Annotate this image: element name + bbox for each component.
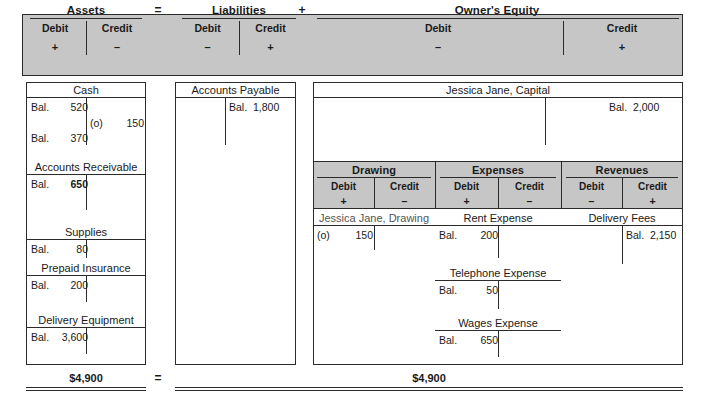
telephone-expense-stem: [498, 281, 499, 309]
delivery-fees-credit: Bal.2,150: [626, 229, 676, 242]
assets-total-double-rule: [26, 387, 146, 391]
accounts-receivable-debit: Bal.650: [31, 178, 88, 191]
liabilities-title-rule: [182, 18, 296, 19]
telephone-expense-debit: Bal.50: [439, 284, 498, 297]
account-name-prepaid-insurance: Prepaid Insurance: [26, 261, 146, 275]
owners-equity-title-rule: [317, 18, 679, 19]
account-name-accounts-receivable: Accounts Receivable: [26, 160, 146, 174]
rent-expense-stem: [498, 226, 499, 258]
cash-debit-1: Bal.520: [31, 101, 88, 114]
drawing-credit-label: Credit: [374, 180, 435, 193]
account-name-wages-expense: Wages Expense: [435, 316, 561, 330]
drawing-debit-sign: +: [313, 195, 374, 208]
operator-equals: =: [151, 3, 165, 17]
liabilities-debit-sign: –: [176, 41, 239, 54]
liabilities-debit-label: Debit: [176, 22, 239, 35]
revenues-debit-label: Debit: [561, 180, 622, 193]
account-name-delivery-equipment: Delivery Equipment: [26, 313, 146, 327]
liabilities-dc-divider: [239, 21, 240, 55]
assets-credit-sign: –: [86, 41, 148, 54]
accounts-payable-credit: Bal.1,800: [229, 101, 279, 114]
account-name-rent-expense: Rent Expense: [435, 211, 561, 225]
delivery-fees-stem: [622, 226, 623, 264]
accounts-payable-stem: [225, 98, 226, 145]
cash-debit-2: Bal.370: [31, 132, 88, 145]
owners-equity-debit-sign: –: [313, 41, 563, 54]
prepaid-insurance-debit: Bal.200: [31, 279, 88, 292]
liabilities-column-box: [175, 82, 296, 365]
sub-group-title-drawing: Drawing: [313, 163, 435, 177]
delivery-equipment-debit: Bal.3,600: [31, 331, 88, 344]
group-title-owners-equity: Owner's Equity: [313, 3, 681, 17]
account-name-drawing: Jessica Jane, Drawing: [313, 211, 435, 225]
t-account-worksheet: Assets Debit Credit + – = Liabilities De…: [0, 0, 705, 405]
group-title-assets: Assets: [24, 3, 148, 17]
drawing-credit-sign: –: [374, 195, 435, 208]
wages-expense-debit: Bal.650: [439, 334, 498, 347]
expenses-debit-sign: +: [435, 195, 498, 208]
capital-rule: [313, 97, 683, 98]
right-total-double-rule: [175, 387, 683, 391]
assets-debit-sign: +: [24, 41, 86, 54]
expenses-debit-label: Debit: [435, 180, 498, 193]
accounts-payable-rule: [175, 97, 296, 98]
revenues-credit-label: Credit: [622, 180, 683, 193]
assets-title-rule: [30, 18, 142, 19]
operator-plus: +: [295, 3, 309, 17]
revenues-debit-sign: –: [561, 195, 622, 208]
assets-dc-divider: [86, 21, 87, 55]
rent-expense-debit: Bal.200: [439, 229, 498, 242]
drawing-debit-label: Debit: [313, 180, 374, 193]
owners-equity-debit-label: Debit: [313, 22, 563, 35]
expenses-credit-label: Credit: [498, 180, 561, 193]
capital-credit: Bal.2,000: [609, 101, 659, 114]
owners-equity-credit-sign: +: [563, 41, 681, 54]
totals-equals: =: [151, 371, 165, 385]
liabilities-credit-sign: +: [239, 41, 302, 54]
drawing-account-stem: [374, 226, 375, 250]
account-name-delivery-fees: Delivery Fees: [561, 211, 683, 225]
revenues-credit-sign: +: [622, 195, 683, 208]
account-name-supplies: Supplies: [26, 225, 146, 239]
right-grand-total: $4,900: [175, 371, 683, 385]
sub-group-title-revenues: Revenues: [561, 163, 683, 177]
owners-equity-credit-label: Credit: [563, 22, 681, 35]
expenses-dc-divider: [498, 178, 499, 208]
drawing-dc-divider: [374, 178, 375, 208]
group-title-liabilities: Liabilities: [176, 3, 302, 17]
supplies-debit: Bal.80: [31, 243, 88, 256]
drawing-debit: (o)150: [317, 229, 373, 242]
assets-debit-label: Debit: [24, 22, 86, 35]
revenues-dc-divider: [622, 178, 623, 208]
expenses-credit-sign: –: [498, 195, 561, 208]
account-name-capital: Jessica Jane, Capital: [313, 83, 683, 97]
account-name-telephone-expense: Telephone Expense: [435, 266, 561, 280]
capital-stem: [545, 98, 546, 145]
assets-credit-label: Credit: [86, 22, 148, 35]
assets-grand-total: $4,900: [26, 371, 146, 385]
liabilities-credit-label: Credit: [239, 22, 302, 35]
wages-expense-stem: [498, 331, 499, 357]
account-name-cash: Cash: [26, 83, 146, 97]
owners-equity-dc-divider: [563, 21, 564, 55]
account-name-accounts-payable: Accounts Payable: [175, 83, 296, 97]
cash-credit-1: (o)150: [90, 117, 144, 130]
sub-group-title-expenses: Expenses: [435, 163, 561, 177]
